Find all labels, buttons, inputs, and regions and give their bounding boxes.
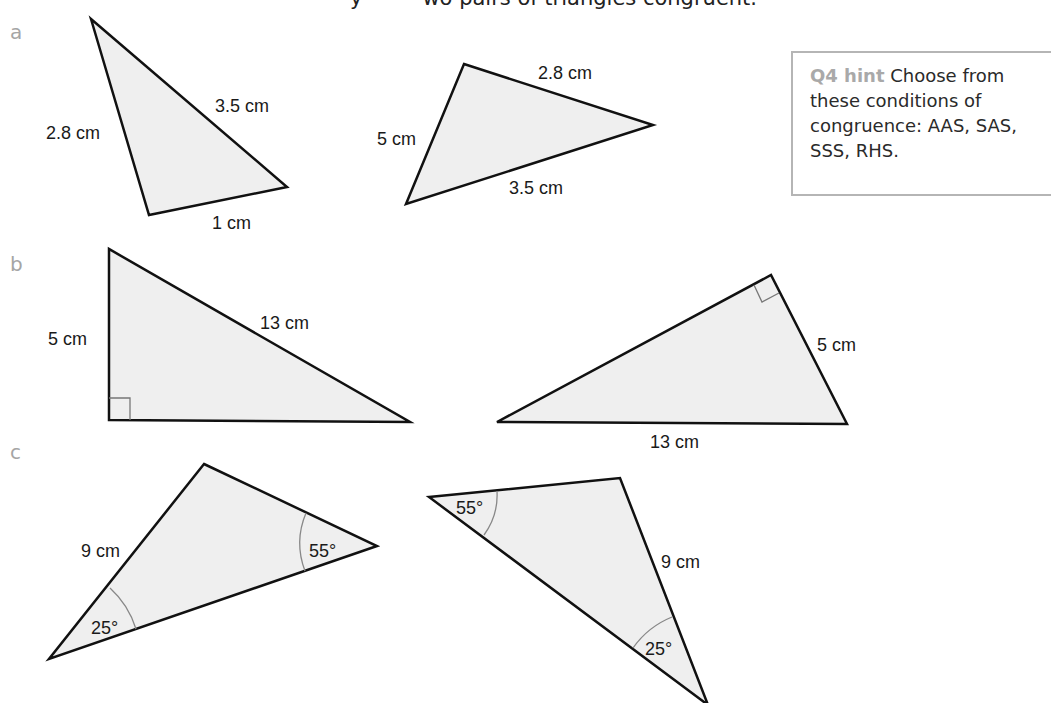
side-label: 13 cm <box>650 432 699 452</box>
side-label: 1 cm <box>212 213 251 233</box>
side-label: 2.8 cm <box>46 123 100 143</box>
angle-label: 55° <box>456 498 483 518</box>
angle-label: 25° <box>91 618 118 638</box>
triangle-c-left: 9 cm 55° 25° <box>49 464 377 659</box>
side-label: 5 cm <box>48 329 87 349</box>
side-label: 3.5 cm <box>215 96 269 116</box>
side-label: 13 cm <box>260 313 309 333</box>
triangle-b-right: 5 cm 13 cm <box>497 275 856 452</box>
angle-label: 25° <box>645 639 672 659</box>
side-label: 9 cm <box>81 541 120 561</box>
triangle-a-left: 2.8 cm 3.5 cm 1 cm <box>46 19 287 233</box>
triangle-a-right: 5 cm 2.8 cm 3.5 cm <box>377 63 653 204</box>
triangle-c-right: 9 cm 55° 25° <box>429 478 708 703</box>
side-label: 3.5 cm <box>509 178 563 198</box>
side-label: 5 cm <box>817 335 856 355</box>
side-label: 9 cm <box>661 552 700 572</box>
side-label: 2.8 cm <box>538 63 592 83</box>
angle-label: 55° <box>309 541 336 561</box>
side-label: 5 cm <box>377 129 416 149</box>
triangle-b-left: 5 cm 13 cm <box>48 249 410 422</box>
